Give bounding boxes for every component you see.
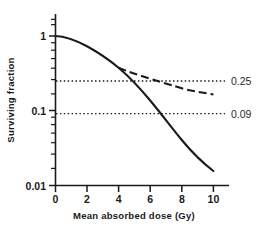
annotation-025: 0.25: [231, 75, 252, 87]
y-tick-label-0-01: 0.01: [26, 180, 47, 192]
x-tick-label-8: 8: [179, 193, 185, 205]
annotation-009: 0.09: [231, 108, 252, 120]
x-tick-label-4: 4: [116, 193, 122, 205]
x-tick-label-2: 2: [84, 193, 90, 205]
x-tick-label-0: 0: [53, 193, 59, 205]
chart-figure: 1 0.1 0.01 0 2 4 6 8 10 0.25 0.09 Mean a…: [0, 0, 266, 226]
survival-curve-plot: 1 0.1 0.01 0 2 4 6 8 10 0.25 0.09 Mean a…: [0, 0, 266, 226]
x-axis-ticks: [56, 186, 214, 192]
axes-group: [56, 14, 230, 186]
x-axis-title: Mean absorbed dose (Gy): [73, 210, 195, 221]
x-tick-label-10: 10: [208, 193, 220, 205]
y-tick-label-1: 1: [40, 30, 46, 42]
reference-lines-group: [56, 81, 225, 114]
y-tick-label-0-1: 0.1: [31, 105, 46, 117]
x-tick-label-6: 6: [147, 193, 153, 205]
solid-survival-curve: [56, 36, 214, 171]
y-axis-title: Surviving fraction: [5, 57, 16, 142]
